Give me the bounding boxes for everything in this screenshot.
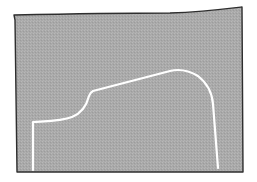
sketch-illustration xyxy=(0,0,257,182)
